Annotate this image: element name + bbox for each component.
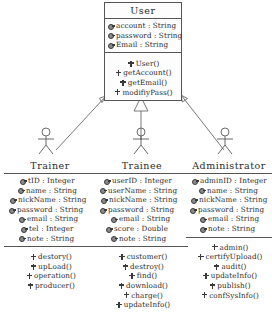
attribute-row: note : String xyxy=(188,224,272,234)
operation-row: modifiyPass() xyxy=(108,88,179,98)
divider xyxy=(4,246,96,247)
operation-row: publish() xyxy=(188,281,272,291)
private-visibility-icon xyxy=(101,196,108,203)
generalization-trainer-to-user xyxy=(56,96,106,150)
public-visibility-icon xyxy=(30,263,37,270)
attribute-row: name : String xyxy=(6,186,96,196)
attribute-row: password : String xyxy=(98,205,188,215)
private-visibility-icon xyxy=(190,206,197,213)
divider xyxy=(186,237,272,238)
attribute-row: email : String xyxy=(188,214,272,224)
class-trainee-operations: customer() destroy() find() download() c… xyxy=(96,249,188,310)
public-visibility-icon xyxy=(120,79,127,86)
operation-row: confSysInfo() xyxy=(188,291,272,301)
private-visibility-icon xyxy=(111,216,118,223)
private-visibility-icon xyxy=(191,196,198,203)
private-visibility-icon xyxy=(108,41,115,48)
operation-row: charge() xyxy=(98,291,188,301)
attribute-row: email : String xyxy=(98,214,188,224)
operation-row: User() xyxy=(108,59,179,69)
attribute-row: note : String xyxy=(6,234,96,244)
private-visibility-icon xyxy=(200,216,207,223)
attribute-row: nickName : String xyxy=(98,195,188,205)
private-visibility-icon xyxy=(21,225,28,232)
attribute-row: email : String xyxy=(6,214,96,224)
private-visibility-icon xyxy=(19,216,26,223)
divider xyxy=(186,173,272,174)
public-visibility-icon xyxy=(115,70,122,77)
class-user: User account : String password : String … xyxy=(104,2,182,101)
attribute-row: tel : Integer xyxy=(6,224,96,234)
class-trainer-name: Trainer xyxy=(4,160,96,172)
class-administrator-name: Administrator xyxy=(186,160,272,172)
attribute-row: password : String xyxy=(6,205,96,215)
attribute-row: Email : String xyxy=(108,40,179,50)
class-user-attributes: account : String password : String Email… xyxy=(105,19,181,53)
class-trainer-operations: destory() upLoad() operation() producer(… xyxy=(4,249,96,290)
actor-figure-administrator xyxy=(212,127,238,155)
public-visibility-icon xyxy=(30,253,37,260)
operation-row: audit() xyxy=(188,262,272,272)
private-visibility-icon xyxy=(20,177,27,184)
public-visibility-icon xyxy=(129,273,136,280)
operation-row: upLoad() xyxy=(6,262,96,272)
operation-row: find() xyxy=(98,271,188,281)
attribute-row: score : Double xyxy=(98,224,188,234)
divider xyxy=(4,173,96,174)
public-visibility-icon xyxy=(201,292,208,299)
operation-row: destory() xyxy=(6,252,96,262)
public-visibility-icon xyxy=(123,292,130,299)
private-visibility-icon xyxy=(108,32,115,39)
attribute-row: adminID : Integer xyxy=(188,176,272,186)
private-visibility-icon xyxy=(18,187,25,194)
class-trainee: Trainee userID : Integer userName : Stri… xyxy=(96,160,188,310)
public-visibility-icon xyxy=(122,263,129,270)
operation-row: operation() xyxy=(6,271,96,281)
public-visibility-icon xyxy=(212,244,219,251)
private-visibility-icon xyxy=(106,225,113,232)
attribute-row: name : String xyxy=(188,186,272,196)
operation-row: customer() xyxy=(98,252,188,262)
attribute-row: password : String xyxy=(108,31,179,41)
operation-row: certifyUpload() xyxy=(188,252,272,262)
class-user-name: User xyxy=(105,3,181,19)
private-visibility-icon xyxy=(108,22,115,29)
public-visibility-icon xyxy=(114,89,121,96)
private-visibility-icon xyxy=(100,206,107,213)
operation-row: admin() xyxy=(188,243,272,253)
public-visibility-icon xyxy=(118,282,125,289)
actor-figure-trainee xyxy=(128,127,154,155)
private-visibility-icon xyxy=(200,225,207,232)
attribute-row: userName : String xyxy=(98,186,188,196)
private-visibility-icon xyxy=(100,187,107,194)
private-visibility-icon xyxy=(9,206,16,213)
class-administrator-attributes: adminID : Integer name : String nickName… xyxy=(186,176,272,234)
actor-figure-trainer xyxy=(33,127,59,155)
divider xyxy=(96,173,188,174)
operation-row: updateInfo() xyxy=(188,271,272,281)
class-trainee-attributes: userID : Integer userName : String nickN… xyxy=(96,176,188,243)
attribute-row: nickName : String xyxy=(188,195,272,205)
public-visibility-icon xyxy=(213,263,220,270)
class-trainer: Trainer tID : Integer name : String nick… xyxy=(4,160,96,291)
private-visibility-icon xyxy=(199,187,206,194)
attribute-row: account : String xyxy=(108,21,179,31)
private-visibility-icon xyxy=(111,235,118,242)
public-visibility-icon xyxy=(198,253,205,260)
class-trainer-attributes: tID : Integer name : String nickName : S… xyxy=(4,176,96,243)
public-visibility-icon xyxy=(116,301,123,308)
operation-row: getAccount() xyxy=(108,68,179,78)
class-user-operations: User() getAccount() getEmail() modifiyPa… xyxy=(105,53,181,100)
public-visibility-icon xyxy=(119,253,126,260)
private-visibility-icon xyxy=(19,235,26,242)
private-visibility-icon xyxy=(10,196,17,203)
private-visibility-icon xyxy=(192,177,199,184)
attribute-row: tID : Integer xyxy=(6,176,96,186)
public-visibility-icon xyxy=(27,282,34,289)
attribute-row: password : String xyxy=(188,205,272,215)
public-visibility-icon xyxy=(26,273,33,280)
divider xyxy=(96,246,188,247)
public-visibility-icon xyxy=(209,282,216,289)
class-administrator: Administrator adminID : Integer name : S… xyxy=(186,160,272,300)
operation-row: producer() xyxy=(6,281,96,291)
